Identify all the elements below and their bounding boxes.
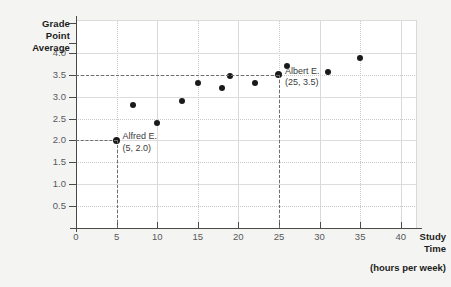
y-axis-tick (69, 97, 77, 98)
gridline-horizontal-major (76, 97, 417, 98)
y-axis-tick (69, 53, 77, 54)
x-axis-tick (76, 222, 77, 229)
x-axis-tick-label: 20 (218, 232, 258, 242)
y-axis-line (76, 16, 77, 232)
leader-line-horizontal-albert (76, 75, 279, 76)
y-axis-tick-label: 3.5 (30, 70, 66, 80)
y-axis-tick-label: 2.0 (30, 135, 66, 145)
annotation-coords-alfred: (5, 2.0) (123, 143, 158, 155)
plot-area (76, 20, 417, 228)
gridline-horizontal-minor (76, 206, 417, 207)
x-axis-title: Study Time (348, 231, 446, 255)
x-axis-tick (320, 222, 321, 229)
y-axis-tick (69, 43, 77, 44)
data-point (219, 85, 225, 91)
x-axis-tick-label: 10 (137, 232, 177, 242)
x-axis-title-line-1: Study (348, 231, 446, 243)
annotation-albert: Albert E.(25, 3.5) (285, 66, 320, 89)
annotation-title-alfred: Alfred E. (123, 131, 158, 143)
gridline-vertical-major (238, 20, 239, 228)
y-axis-tick (69, 162, 77, 163)
leader-line-vertical-alfred (117, 140, 118, 228)
x-axis-tick-label: 25 (259, 232, 299, 242)
y-axis-tick (69, 206, 77, 207)
y-axis-tick (69, 119, 77, 120)
gridline-vertical-minor (360, 20, 361, 228)
leader-line-vertical-albert (279, 75, 280, 228)
x-axis-tick-label: 5 (97, 232, 137, 242)
gridline-horizontal-major (76, 184, 417, 185)
x-axis-tick (401, 222, 402, 229)
gridline-vertical-minor (198, 20, 199, 228)
y-axis-tick-label: 0.5 (30, 201, 66, 211)
x-axis-tick-label: 15 (178, 232, 218, 242)
gridline-horizontal-minor (76, 162, 417, 163)
y-axis-tick (69, 23, 77, 24)
gridline-horizontal-minor (76, 119, 417, 120)
x-axis-tick (360, 222, 361, 229)
data-point (179, 98, 185, 104)
y-axis-tick-label: 3.0 (30, 92, 66, 102)
scatter-chart: 0.51.01.52.02.53.03.54.00510152025303540… (0, 0, 451, 287)
y-axis-tick (69, 184, 77, 185)
data-point (325, 69, 331, 75)
annotation-title-albert: Albert E. (285, 66, 320, 78)
x-axis-tick (198, 222, 199, 229)
x-axis-line (70, 228, 422, 229)
y-axis-title-line-1: Grade (6, 18, 70, 30)
x-axis-title-line-2: Time (348, 243, 446, 255)
y-axis-title-line-2: Point (6, 30, 70, 42)
gridline-vertical-major (320, 20, 321, 228)
y-axis-tick-label: 1.0 (30, 179, 66, 189)
y-axis-tick-label: 1.5 (30, 157, 66, 167)
x-axis-tick (157, 222, 158, 229)
gridline-vertical-major (401, 20, 402, 228)
annotation-alfred: Alfred E.(5, 2.0) (123, 131, 158, 154)
x-axis-subtitle: (hours per week) (300, 262, 446, 273)
gridline-plot-top (76, 20, 417, 21)
leader-line-horizontal-alfred (76, 140, 117, 141)
x-axis-tick (238, 222, 239, 229)
gridline-plot-right (416, 20, 417, 228)
x-axis-tick-label: 30 (300, 232, 340, 242)
y-axis-title: Grade Point Average (6, 18, 70, 53)
y-axis-tick-label: 2.5 (30, 114, 66, 124)
gridline-horizontal-major (76, 53, 417, 54)
annotation-coords-albert: (25, 3.5) (285, 77, 320, 89)
y-axis-title-line-3: Average (6, 42, 70, 54)
x-axis-tick-label: 0 (56, 232, 96, 242)
